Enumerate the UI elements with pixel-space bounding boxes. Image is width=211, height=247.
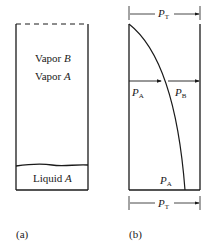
diagram-canvas (0, 0, 211, 247)
caption-b: (b) (129, 228, 142, 240)
partial-pressure-curve (129, 24, 185, 190)
partial-pressure-b-label: PB (175, 86, 186, 102)
caption-a: (a) (16, 228, 28, 240)
container-a (16, 24, 88, 190)
liquid-surface-line (16, 164, 88, 166)
vapor-a-label: Vapor A (35, 70, 71, 82)
vapor-b-label: Vapor B (35, 52, 71, 64)
partial-pressure-a-bottom-label: PA (160, 174, 172, 190)
total-pressure-bottom-label: PT (158, 197, 169, 213)
liquid-a-label: Liquid A (33, 172, 72, 184)
total-pressure-top-label: PT (158, 7, 169, 23)
partial-pressure-a-label: PA (132, 86, 144, 102)
